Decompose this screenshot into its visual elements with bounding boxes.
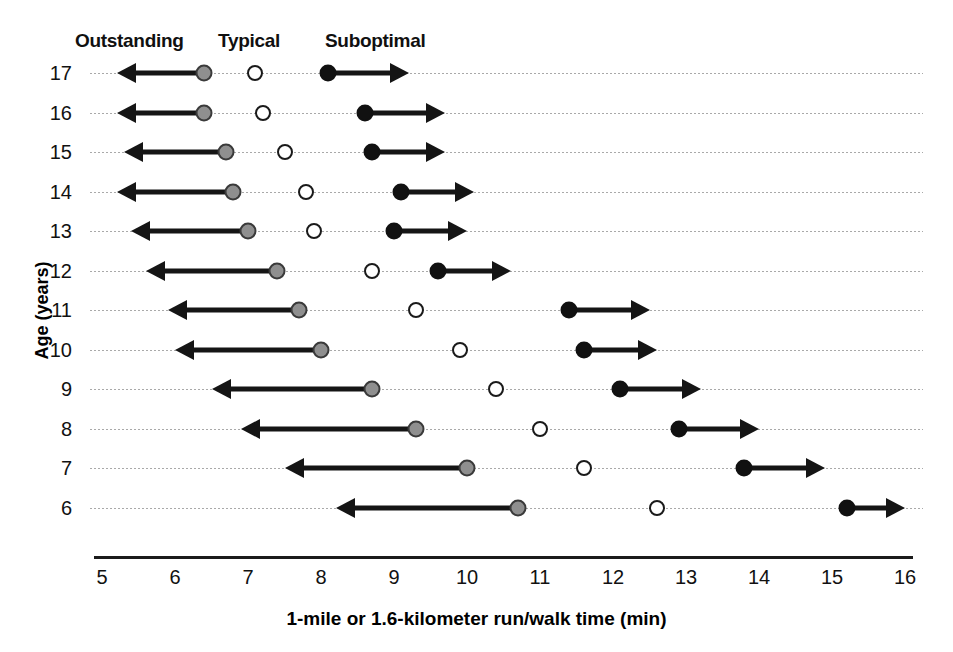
suboptimal-arrow-head-right [806,458,825,478]
outstanding-arrow-shaft [255,426,416,431]
suboptimal-arrow-shaft [394,229,453,234]
outstanding-marker [510,499,527,516]
y-tick-label: 11 [26,299,72,322]
suboptimal-marker [386,223,403,240]
run-walk-time-chart: Outstanding Typical Suboptimal Age (year… [0,0,953,652]
typical-marker [247,65,263,81]
typical-marker [408,302,424,318]
suboptimal-arrow-head-right [426,103,445,123]
x-tick-label: 15 [821,566,843,589]
outstanding-arrow-head-left [131,221,150,241]
outstanding-arrow-shaft [299,466,468,471]
x-tick-label: 13 [675,566,697,589]
outstanding-arrow-shaft [350,505,519,510]
gridline-row [90,73,923,74]
typical-marker [532,421,548,437]
suboptimal-arrow-shaft [438,268,497,273]
suboptimal-arrow-head-right [886,498,905,518]
suboptimal-arrow-shaft [372,150,431,155]
x-axis-title: 1-mile or 1.6-kilometer run/walk time (m… [0,608,953,630]
suboptimal-marker [429,262,446,279]
y-tick-label: 16 [26,101,72,124]
typical-marker [452,342,468,358]
x-tick-label: 14 [748,566,770,589]
outstanding-arrow-shaft [182,308,299,313]
y-tick-label: 12 [26,259,72,282]
x-tick-label: 6 [169,566,180,589]
typical-marker [576,460,592,476]
x-tick-label: 7 [242,566,253,589]
suboptimal-arrow-shaft [679,426,745,431]
suboptimal-arrow-shaft [569,308,635,313]
suboptimal-arrow-shaft [584,347,643,352]
outstanding-marker [225,183,242,200]
outstanding-arrow-head-left [285,458,304,478]
outstanding-arrow-shaft [145,229,248,234]
outstanding-marker [196,104,213,121]
y-tick-label: 6 [26,496,72,519]
suboptimal-marker [575,341,592,358]
suboptimal-marker [320,65,337,82]
outstanding-arrow-head-left [336,498,355,518]
typical-marker [488,381,504,397]
legend-label-suboptimal: Suboptimal [325,30,425,52]
outstanding-arrow-shaft [189,347,321,352]
suboptimal-arrow-shaft [620,387,686,392]
suboptimal-arrow-head-right [448,221,467,241]
typical-marker [306,223,322,239]
suboptimal-arrow-head-right [740,419,759,439]
typical-marker [364,263,380,279]
y-tick-label: 17 [26,62,72,85]
suboptimal-arrow-head-right [492,261,511,281]
x-tick-label: 10 [456,566,478,589]
suboptimal-arrow-head-right [455,182,474,202]
outstanding-arrow-head-left [117,103,136,123]
x-tick-label: 11 [530,566,551,589]
suboptimal-marker [393,183,410,200]
suboptimal-arrow-shaft [328,71,394,76]
outstanding-arrow-head-left [212,379,231,399]
y-tick-label: 10 [26,338,72,361]
suboptimal-marker [612,381,629,398]
suboptimal-marker [561,302,578,319]
y-tick-label: 13 [26,220,72,243]
typical-marker [255,105,271,121]
gridline-row [90,429,923,430]
outstanding-marker [364,381,381,398]
x-tick-label: 5 [96,566,107,589]
outstanding-marker [196,65,213,82]
outstanding-arrow-head-left [175,340,194,360]
suboptimal-arrow-head-right [426,142,445,162]
suboptimal-marker [670,420,687,437]
suboptimal-marker [736,460,753,477]
outstanding-marker [459,460,476,477]
typical-marker [649,500,665,516]
suboptimal-marker [356,104,373,121]
outstanding-marker [313,341,330,358]
outstanding-arrow-head-left [124,142,143,162]
suboptimal-marker [364,144,381,161]
legend-label-outstanding: Outstanding [75,30,184,52]
typical-marker [277,144,293,160]
outstanding-marker [269,262,286,279]
outstanding-arrow-head-left [117,63,136,83]
outstanding-arrow-head-left [241,419,260,439]
suboptimal-arrow-head-right [390,63,409,83]
outstanding-arrow-shaft [226,387,373,392]
x-tick-label: 8 [315,566,326,589]
x-tick-label: 12 [602,566,624,589]
x-tick-label: 9 [388,566,399,589]
suboptimal-arrow-head-right [638,340,657,360]
suboptimal-marker [838,499,855,516]
suboptimal-arrow-shaft [401,189,460,194]
y-tick-label: 15 [26,141,72,164]
outstanding-arrow-shaft [160,268,277,273]
y-tick-label: 7 [26,457,72,480]
outstanding-arrow-shaft [131,189,234,194]
outstanding-marker [291,302,308,319]
suboptimal-arrow-shaft [744,466,810,471]
x-tick-label: 16 [894,566,916,589]
suboptimal-arrow-shaft [365,110,431,115]
y-tick-label: 8 [26,417,72,440]
suboptimal-arrow-head-right [682,379,701,399]
